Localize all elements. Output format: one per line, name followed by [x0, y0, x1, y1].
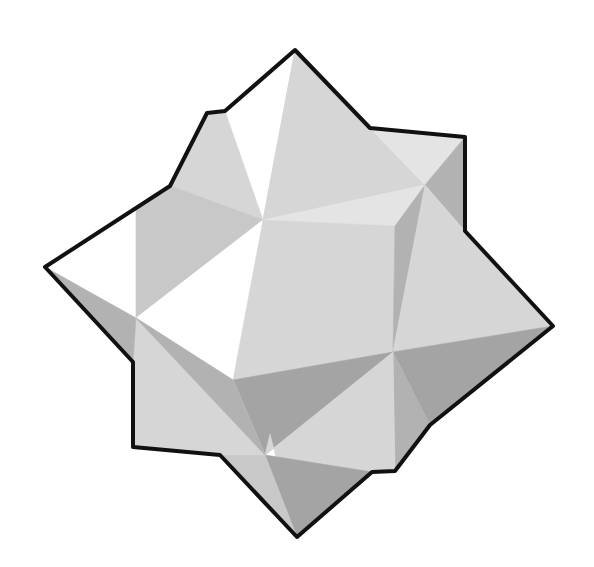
polyhedron-drawing: [0, 0, 594, 567]
polyhedron-figure: [0, 0, 594, 567]
